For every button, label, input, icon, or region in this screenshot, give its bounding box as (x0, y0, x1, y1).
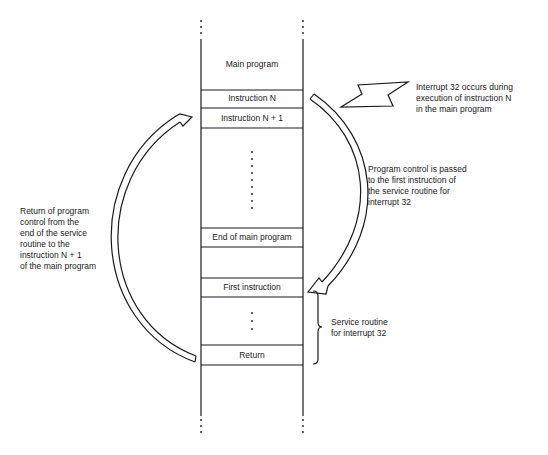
return-annotation: Return of program control from the end o… (20, 206, 96, 272)
cell-return: Return (201, 350, 303, 361)
main-program-ellipsis-dots (251, 151, 253, 209)
cell-instruction-n: Instruction N (201, 93, 303, 104)
cell-first-instruction: First instruction (201, 282, 303, 293)
return-arrow-icon (111, 114, 196, 362)
cell-instruction-n-plus-1: Instruction N + 1 (201, 113, 303, 124)
cell-main-program: Main program (201, 59, 303, 70)
lightning-bolt-icon (341, 82, 408, 107)
bottom-continuation-dots (200, 419, 304, 433)
service-routine-brace-icon (313, 291, 322, 364)
transfer-arrow-icon (308, 94, 368, 294)
top-continuation-dots (200, 20, 304, 34)
interrupt-annotation: Interrupt 32 occurs during execution of … (416, 82, 513, 115)
service-routine-ellipsis-dots (251, 312, 253, 330)
cell-end-of-main-program: End of main program (201, 232, 303, 243)
transfer-annotation: Program control is passed to the first i… (368, 164, 467, 208)
service-routine-annotation: Service routine for interrupt 32 (331, 317, 388, 339)
